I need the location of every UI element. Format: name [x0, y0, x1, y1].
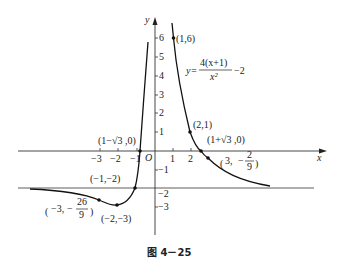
svg-text:): ) [255, 158, 258, 170]
left-branch-curve [30, 42, 148, 205]
point-label-neg1-neg2: (−1,−2) [90, 173, 120, 185]
x-tick-neg3: −3 [91, 153, 102, 164]
svg-text:): ) [90, 206, 93, 218]
origin-label: O [145, 152, 152, 163]
x-tick-1: 1 [170, 153, 175, 164]
y-tick-1: 1 [159, 126, 164, 137]
point-label-neg3-neg26-9: ( −3, − 26 9 ) [45, 196, 93, 220]
svg-text:y=: y= [185, 65, 197, 76]
y-tick-6: 6 [159, 32, 164, 43]
point-label-1-minus-root3: (1−√3 ,0) [98, 135, 136, 147]
x-tick-2: 2 [188, 153, 193, 164]
svg-text:−3,: −3, [51, 203, 64, 214]
svg-text:26: 26 [77, 196, 87, 207]
y-tick-neg1: −1 [158, 164, 169, 175]
y-tick-3: 3 [159, 89, 164, 100]
svg-text:x²: x² [209, 71, 218, 82]
svg-text:(: ( [45, 206, 49, 218]
y-axis-label: y [144, 14, 150, 25]
figure-caption: 图 4－25 [147, 247, 191, 258]
point-label-3-neg2-9: ( 3, − 2 9 ) [220, 149, 258, 172]
y-axis-arrow-icon [153, 17, 158, 25]
y-tick-5: 5 [159, 51, 164, 62]
svg-text:−: − [238, 155, 244, 166]
y-tick-2: 2 [159, 107, 164, 118]
svg-text:3,: 3, [225, 155, 233, 166]
svg-text:2: 2 [247, 149, 252, 160]
svg-text:−: − [67, 203, 73, 214]
svg-text:4(x+1): 4(x+1) [200, 57, 227, 69]
y-tick-4: 4 [159, 70, 164, 81]
svg-text:−2: −2 [234, 65, 245, 76]
point-label-2-1: (2,1) [193, 119, 212, 131]
function-equation: y= 4(x+1) x² −2 [185, 57, 245, 82]
svg-text:9: 9 [247, 161, 252, 172]
y-tick-neg3: −3 [158, 201, 169, 212]
point-label-1-6: (1,6) [176, 33, 195, 45]
x-tick-neg2: −2 [110, 153, 121, 164]
x-axis-label: x [316, 152, 322, 163]
point-label-neg2-neg3: (−2,−3) [101, 213, 131, 225]
function-graph: x y O 6 5 4 3 2 1 −1 −2 −3 −3 −2 −1 1 2 [0, 0, 340, 265]
svg-text:(: ( [220, 158, 224, 170]
svg-text:9: 9 [79, 209, 84, 220]
point-label-1-plus-root3: (1+√3 ,0) [207, 134, 245, 146]
y-tick-neg2: −2 [158, 188, 169, 199]
